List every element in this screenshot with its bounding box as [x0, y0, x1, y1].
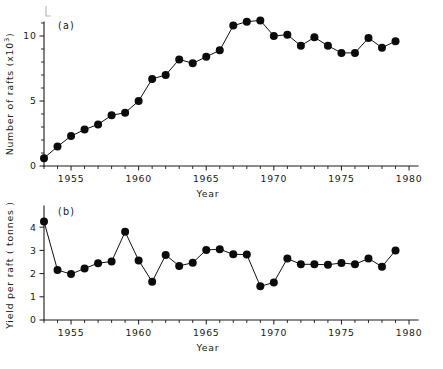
data-point: [283, 255, 291, 263]
y-tick-label: 1: [30, 291, 37, 302]
data-point: [67, 270, 75, 278]
data-point: [189, 259, 197, 267]
data-point: [162, 251, 170, 259]
panel-b: 01234195519601965197019751980Year(b)Yiel…: [0, 0, 443, 369]
data-point: [135, 256, 143, 264]
x-tick-label: 1970: [261, 327, 287, 338]
data-point: [108, 258, 116, 266]
data-point: [337, 259, 345, 267]
y-tick-label: 0: [30, 314, 37, 325]
data-point: [297, 260, 305, 268]
x-tick-label: 1975: [328, 327, 354, 338]
data-point: [40, 217, 48, 225]
data-point: [94, 259, 102, 267]
y-tick-label: 4: [30, 222, 37, 233]
data-point: [54, 266, 62, 274]
data-point: [148, 278, 156, 286]
x-tick-label: 1980: [396, 327, 422, 338]
y-tick-label: 3: [30, 245, 37, 256]
data-point: [202, 246, 210, 254]
x-tick-label: 1960: [125, 327, 151, 338]
data-point: [364, 255, 372, 263]
y-axis-title: Yield per raft ( tonnes ): [4, 201, 15, 330]
data-point: [351, 260, 359, 268]
data-point: [392, 246, 400, 254]
data-point: [121, 228, 129, 236]
data-point: [243, 251, 251, 259]
y-axis-title-group-b: Yield per raft ( tonnes ): [4, 201, 15, 330]
panel-b-plot: 01234195519601965197019751980Year(b)Yiel…: [0, 0, 443, 369]
data-point: [256, 282, 264, 290]
data-point: [378, 263, 386, 271]
data-point: [310, 260, 318, 268]
data-point: [81, 265, 89, 273]
x-axis-title: Year: [196, 342, 220, 353]
data-point: [216, 245, 224, 253]
x-tick-label: 1965: [193, 327, 219, 338]
data-series-line: [44, 221, 396, 286]
data-point: [270, 278, 278, 286]
panel-label: (b): [58, 206, 75, 217]
figure-container: 0510195519601965197019751980Year(a)Numbe…: [0, 0, 443, 369]
x-tick-label: 1955: [58, 327, 84, 338]
data-point: [324, 261, 332, 269]
data-point: [175, 262, 183, 270]
y-tick-label: 2: [30, 268, 37, 279]
data-point: [229, 250, 237, 258]
